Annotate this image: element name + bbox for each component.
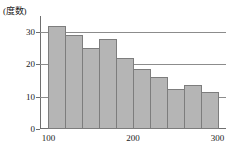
histogram-bar: [116, 58, 134, 129]
y-tick-30: [36, 32, 40, 33]
histogram-bar: [48, 26, 66, 129]
plot-area: 0102030 100200300 (g): [40, 16, 226, 129]
y-tick-label-10: 10: [26, 92, 35, 102]
y-tick-label-20: 20: [26, 59, 35, 69]
histogram-bar: [82, 48, 100, 129]
histogram-bar: [201, 92, 219, 129]
gridline-30: [40, 32, 226, 33]
histogram-bar: [65, 35, 83, 129]
x-tick-label-100: 100: [42, 133, 56, 143]
y-axis-caption: (度数): [3, 4, 26, 17]
y-tick-20: [36, 64, 40, 65]
histogram-bar: [184, 85, 202, 129]
histogram-bar: [167, 89, 185, 129]
y-tick-0: [36, 129, 40, 130]
histogram-bar: [99, 39, 117, 129]
histogram-chart: (度数) 0102030 100200300 (g): [0, 0, 227, 159]
y-tick-label-30: 30: [26, 27, 35, 37]
histogram-bar: [150, 77, 168, 129]
y-tick-label-0: 0: [31, 124, 36, 134]
x-tick-label-300: 300: [211, 133, 225, 143]
x-tick-label-200: 200: [126, 133, 140, 143]
y-tick-10: [36, 97, 40, 98]
histogram-bar: [133, 69, 151, 129]
